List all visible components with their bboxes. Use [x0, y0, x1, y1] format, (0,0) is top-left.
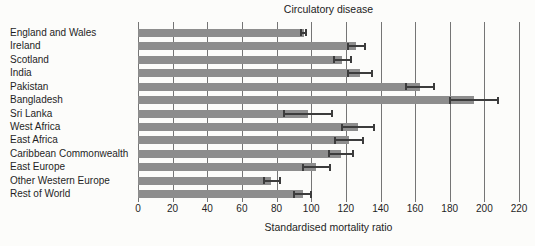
error-bar-cap-high — [305, 29, 307, 36]
error-bar-cap-low — [333, 56, 335, 63]
x-tick-label: 180 — [441, 203, 458, 214]
gridline — [381, 22, 382, 202]
error-bar-cap-low — [347, 70, 349, 77]
error-bar-cap-high — [279, 177, 281, 184]
error-bar — [406, 86, 434, 88]
x-axis-label: Standardised mortality ratio — [138, 221, 519, 233]
chart-title: Circulatory disease — [138, 3, 519, 15]
error-bar — [264, 180, 280, 182]
gridline — [415, 22, 416, 202]
x-tick-label: 140 — [372, 203, 389, 214]
error-bar — [450, 99, 499, 101]
bar — [138, 163, 316, 171]
bar — [138, 150, 341, 158]
error-bar-cap-high — [310, 191, 312, 198]
bar — [138, 177, 271, 185]
error-bar — [284, 113, 333, 115]
category-label: Ireland — [10, 40, 136, 52]
error-bar — [303, 166, 331, 168]
error-bar-cap-low — [328, 150, 330, 157]
category-label: Scotland — [10, 54, 136, 66]
x-tick-label: 200 — [476, 203, 493, 214]
category-label: Pakistan — [10, 81, 136, 93]
category-label: Other Western Europe — [10, 175, 136, 187]
bar — [138, 42, 356, 50]
x-tick-label: 220 — [511, 203, 528, 214]
x-tick-label: 100 — [303, 203, 320, 214]
error-bar-cap-high — [350, 56, 352, 63]
category-label: East Europe — [10, 161, 136, 173]
x-tick-label: 160 — [407, 203, 424, 214]
bar — [138, 136, 349, 144]
category-label: Caribbean Commonwealth — [10, 148, 136, 160]
error-bar-cap-low — [302, 164, 304, 171]
error-bar-cap-high — [362, 137, 364, 144]
error-bar-cap-high — [497, 97, 499, 104]
bar — [138, 29, 304, 37]
bar — [138, 190, 303, 198]
error-bar-cap-high — [352, 150, 354, 157]
error-bar-cap-low — [405, 83, 407, 90]
error-bar — [348, 45, 365, 47]
x-tick-label: 120 — [337, 203, 354, 214]
bar — [138, 56, 342, 64]
error-bar-cap-high — [364, 43, 366, 50]
x-tick-label: 60 — [236, 203, 247, 214]
category-label: Bangladesh — [10, 94, 136, 106]
error-bar-cap-low — [341, 124, 343, 131]
error-bar-cap-low — [293, 191, 295, 198]
error-bar-cap-low — [449, 97, 451, 104]
gridline — [484, 22, 485, 202]
category-label: West Africa — [10, 121, 136, 133]
category-label: Sri Lanka — [10, 108, 136, 120]
x-tick-label: 80 — [271, 203, 282, 214]
error-bar-cap-high — [373, 124, 375, 131]
error-bar-cap-high — [329, 164, 331, 171]
error-bar-cap-low — [347, 43, 349, 50]
error-bar — [348, 72, 372, 74]
error-bar-cap-low — [283, 110, 285, 117]
error-bar — [342, 126, 373, 128]
category-label: East Africa — [10, 134, 136, 146]
category-label: England and Wales — [10, 27, 136, 39]
error-bar — [329, 153, 353, 155]
gridline — [450, 22, 451, 202]
error-bar-cap-low — [334, 137, 336, 144]
category-label: India — [10, 67, 136, 79]
x-tick-label: 0 — [135, 203, 141, 214]
error-bar-cap-high — [433, 83, 435, 90]
gridline — [519, 22, 520, 202]
error-bar-cap-high — [371, 70, 373, 77]
bar — [138, 69, 360, 77]
bar — [138, 123, 358, 131]
category-label: Rest of World — [10, 188, 136, 200]
bar — [138, 83, 420, 91]
error-bar — [334, 59, 351, 61]
bar-chart: Circulatory disease Standardised mortali… — [0, 0, 535, 246]
x-tick-label: 40 — [202, 203, 213, 214]
error-bar-cap-low — [263, 177, 265, 184]
error-bar — [294, 193, 311, 195]
error-bar-cap-high — [331, 110, 333, 117]
error-bar-cap-low — [300, 29, 302, 36]
bar — [138, 96, 474, 104]
x-tick-label: 20 — [167, 203, 178, 214]
plot-area — [138, 22, 519, 201]
error-bar — [335, 139, 363, 141]
